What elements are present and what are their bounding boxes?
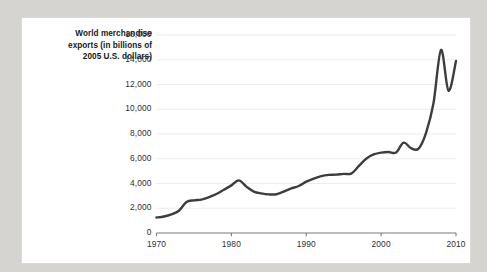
line-chart: World merchandise exports (in billions o… — [22, 18, 470, 263]
plot-area — [22, 18, 470, 263]
figure-panel: World merchandise exports (in billions o… — [22, 18, 470, 263]
